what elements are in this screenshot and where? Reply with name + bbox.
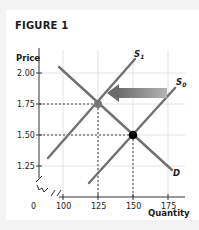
gridlines	[39, 50, 185, 197]
x-tick-175: 175	[161, 202, 176, 211]
y-tick-1-75: 1.75	[17, 100, 35, 109]
y-tick-1-50: 1.50	[17, 131, 35, 140]
y-axis-label: Price	[16, 53, 40, 63]
supply-demand-chart: Price Quantity 2.00 1.75 1.50 1.25 0 100…	[0, 0, 199, 230]
x-tick-100: 100	[56, 202, 71, 211]
curves	[48, 59, 175, 183]
shift-arrow-icon	[107, 84, 167, 102]
y-tick-1-25: 1.25	[17, 162, 35, 171]
s1-label: S1	[134, 49, 144, 60]
s0-label: S0	[176, 77, 186, 88]
axes	[36, 48, 185, 197]
x-tick-0: 0	[31, 202, 36, 211]
demand-label: D	[173, 168, 180, 178]
supply-curve-s1	[48, 59, 135, 158]
y-tick-2-00: 2.00	[17, 69, 35, 78]
new-equilibrium-point	[94, 100, 102, 108]
x-tick-125: 125	[91, 202, 106, 211]
initial-equilibrium-point	[129, 131, 138, 140]
x-tick-150: 150	[126, 202, 141, 211]
